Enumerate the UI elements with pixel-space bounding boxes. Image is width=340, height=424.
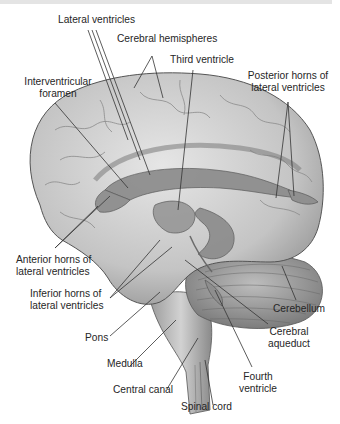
label-central-canal: Central canal <box>113 384 173 396</box>
label-line-2: lateral ventricles <box>16 266 91 278</box>
label-line-2: aqueduct <box>264 338 314 350</box>
label-line-1: Fourth <box>238 371 278 383</box>
label-line-1: Posterior horns of <box>240 70 336 82</box>
label-fourth-ventricle: Fourth ventricle <box>238 371 278 395</box>
label-line-1: Anterior horns of <box>16 254 91 266</box>
label-spinal-cord: Spinal cord <box>181 401 232 413</box>
label-line-2: lateral ventricles <box>240 82 336 94</box>
label-line-1: Interventricular <box>17 76 99 88</box>
label-cerebellum: Cerebellum <box>273 303 325 315</box>
label-inferior-horns: Inferior horns of lateral ventricles <box>30 288 104 312</box>
label-third-ventricle: Third ventricle <box>170 54 234 66</box>
label-medulla: Medulla <box>107 358 143 370</box>
label-lateral-ventricles: Lateral ventricles <box>58 14 135 26</box>
label-line-1: Cerebral <box>264 326 314 338</box>
label-line-2: foramen <box>17 88 99 100</box>
label-cerebral-hemispheres: Cerebral hemispheres <box>117 33 217 45</box>
label-posterior-horns: Posterior horns of lateral ventricles <box>240 70 336 94</box>
label-line-2: lateral ventricles <box>30 300 104 312</box>
label-cerebral-aqueduct: Cerebral aqueduct <box>264 326 314 350</box>
label-anterior-horns: Anterior horns of lateral ventricles <box>16 254 91 278</box>
label-line-2: ventricle <box>238 383 278 395</box>
label-interventricular-foramen: Interventricular foramen <box>17 76 99 100</box>
label-line-1: Inferior horns of <box>30 288 104 300</box>
label-pons: Pons <box>85 332 108 344</box>
